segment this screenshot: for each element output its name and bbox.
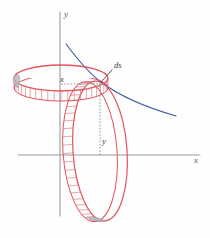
axes-group: x y <box>18 9 200 216</box>
diagram-svg: x y <box>0 0 210 238</box>
vertical-ring-band-rungs <box>58 81 105 223</box>
figure-canvas: x y <box>0 0 210 238</box>
x-axis-label: x <box>193 155 198 165</box>
y-axis-label: y <box>63 9 68 19</box>
vertical-ring-inner-edge <box>58 80 122 223</box>
x-measure-label: x <box>59 74 64 84</box>
generating-curve <box>66 44 176 116</box>
ds-label: ds <box>114 60 122 70</box>
y-measure-label: y <box>101 136 106 146</box>
